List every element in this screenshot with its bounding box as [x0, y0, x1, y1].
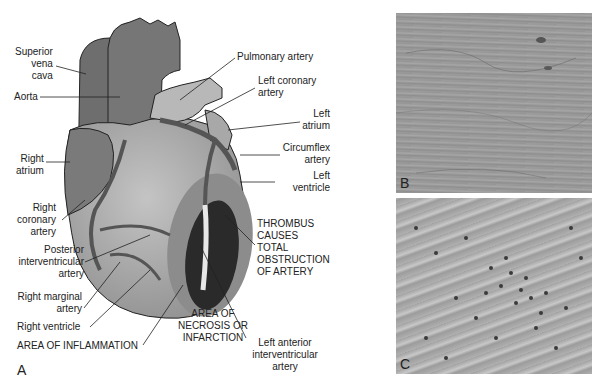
micrograph-c-nuclei: [396, 198, 592, 374]
panel-letter-b: B: [400, 175, 409, 191]
label-circumflex-artery: Circumflex artery: [280, 142, 330, 166]
micrograph-b-texture: [396, 13, 592, 193]
label-left-anterior-interventricular-artery: Left anterior interventricular artery: [250, 337, 320, 373]
micrograph-c: C: [396, 198, 592, 374]
label-left-atrium: Left atrium: [300, 108, 330, 132]
label-superior-vena-cava: Superior vena cava: [15, 46, 53, 82]
label-thrombus: THROMBUS CAUSES TOTAL OBSTRUCTION OF ART…: [257, 218, 330, 278]
micrograph-b: B: [396, 13, 592, 193]
label-right-marginal-artery: Right marginal artery: [16, 291, 82, 315]
label-right-ventricle: Right ventricle: [17, 321, 80, 333]
label-left-ventricle: Left ventricle: [278, 170, 330, 194]
blocked-lad-artery: [203, 205, 206, 290]
label-right-atrium: Right atrium: [16, 153, 44, 177]
label-right-coronary-artery: Right coronary artery: [16, 202, 56, 238]
panel-letter-a: A: [17, 362, 26, 378]
label-area-of-necrosis: AREA OF NECROSIS OR INFARCTION: [176, 308, 250, 344]
label-posterior-interventricular-artery: Posterior interventricular artery: [16, 244, 84, 280]
label-area-of-inflammation: AREA OF INFLAMMATION: [17, 340, 138, 352]
label-pulmonary-artery: Pulmonary artery: [237, 51, 313, 63]
label-aorta: Aorta: [14, 91, 38, 103]
label-left-coronary-artery: Left coronary artery: [258, 75, 316, 99]
panel-letter-c: C: [400, 356, 410, 372]
